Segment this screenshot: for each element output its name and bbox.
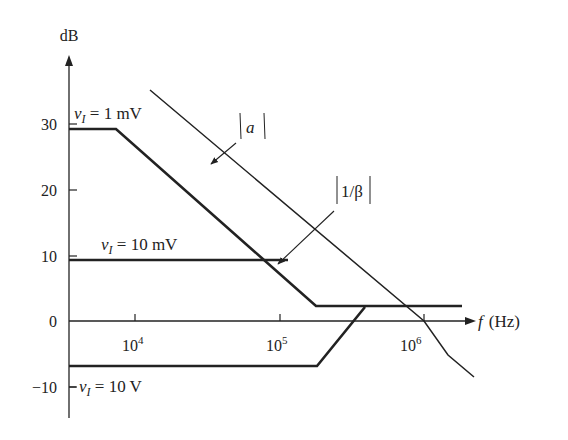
series-vi-1mv xyxy=(69,129,462,306)
svg-text:1/β: 1/β xyxy=(341,182,363,201)
x-tick-1e5: 105 xyxy=(266,334,288,354)
annotation-feedback-factor: 1/β xyxy=(278,176,370,264)
svg-text:vI = 10 V: vI = 10 V xyxy=(79,377,143,399)
label-vi-1mv: vI = 1 mV xyxy=(74,104,143,126)
y-tick-neg10: −10 xyxy=(32,379,57,396)
x-axis-arrow-icon xyxy=(465,317,476,325)
y-tick-10: 10 xyxy=(41,248,57,265)
series-vi-10v xyxy=(69,307,365,366)
y-tick-20: 20 xyxy=(41,182,57,199)
x-ticks xyxy=(135,314,424,321)
annotation-open-loop-gain: a xyxy=(211,113,265,164)
y-axis-arrow-icon xyxy=(65,55,73,66)
series-open-loop-gain xyxy=(150,90,474,377)
bode-plot: 30 20 10 0 −10 dB 104 105 106 f(Hz) a 1/… xyxy=(0,0,568,440)
x-tick-1e6: 106 xyxy=(400,334,422,354)
label-vi-10v: vI = 10 V xyxy=(69,377,143,399)
x-axis-label: f(Hz) xyxy=(478,312,520,331)
y-tick-30: 30 xyxy=(41,116,57,133)
label-vi-10mv: vI = 10 mV xyxy=(101,235,178,257)
y-ticks xyxy=(69,124,77,387)
y-axis-label: dB xyxy=(60,27,79,44)
x-tick-1e4: 104 xyxy=(122,334,144,354)
y-tick-0: 0 xyxy=(49,313,57,330)
svg-text:a: a xyxy=(246,118,255,137)
